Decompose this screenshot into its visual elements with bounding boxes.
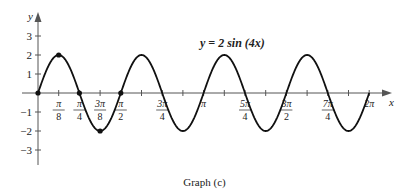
x-axis-label: x: [388, 96, 394, 108]
x-tick-numerator: π: [56, 98, 62, 109]
sine-graph: xy321−1−2−3π8π43π8π23π4π5π43π27π42πy = 2…: [0, 0, 409, 176]
graph-caption: Graph (c): [0, 176, 409, 188]
x-tick-denominator: 4: [160, 111, 165, 122]
y-tick-label: −2: [20, 125, 32, 137]
y-tick-label: −1: [20, 106, 32, 118]
x-tick-denominator: 4: [325, 111, 330, 122]
x-tick-denominator: 2: [118, 111, 123, 122]
y-axis-arrow-icon: [35, 12, 42, 22]
x-tick-denominator: 8: [56, 111, 61, 122]
y-tick-label: 3: [27, 30, 33, 42]
x-tick-denominator: 4: [77, 111, 82, 122]
x-tick-numerator: 3π: [94, 98, 106, 109]
marked-point: [118, 90, 123, 95]
marked-point: [35, 90, 40, 95]
x-tick-denominator: 8: [98, 111, 103, 122]
y-axis-label: y: [27, 10, 33, 22]
marked-point: [98, 128, 103, 133]
x-tick-denominator: 2: [284, 111, 289, 122]
y-tick-label: 1: [27, 68, 33, 80]
marked-point: [77, 90, 82, 95]
x-tick-denominator: 4: [243, 111, 248, 122]
y-tick-label: −3: [20, 144, 32, 156]
y-tick-label: 2: [27, 49, 33, 61]
marked-point: [56, 52, 61, 57]
equation-label: y = 2 sin (4x): [198, 36, 265, 50]
